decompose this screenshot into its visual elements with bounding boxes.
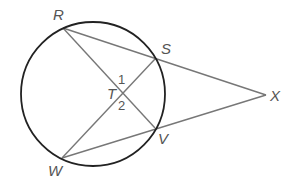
label-X: X — [269, 87, 281, 104]
label-R: R — [53, 6, 64, 23]
label-S: S — [161, 40, 171, 57]
circle — [21, 22, 165, 166]
circle-secant-diagram: R S V W X T 1 2 — [0, 0, 292, 180]
label-V: V — [158, 130, 170, 147]
angle-1-label: 1 — [118, 72, 125, 87]
label-W: W — [48, 162, 64, 179]
angle-2-label: 2 — [118, 98, 125, 113]
